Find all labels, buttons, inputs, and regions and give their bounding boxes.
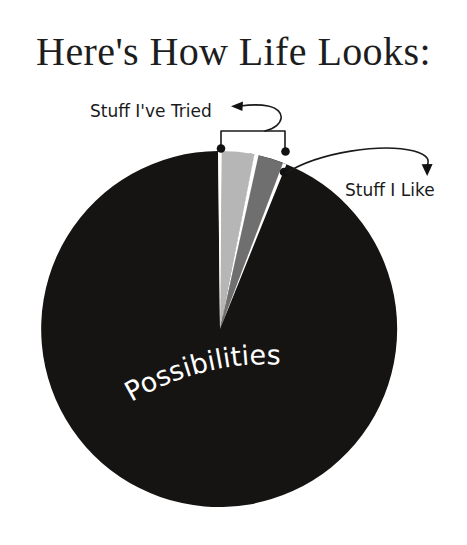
annotation-stuff-i-like: Stuff I Like (345, 180, 435, 200)
pie-slices (41, 151, 397, 507)
leader-dot-right (281, 147, 290, 156)
leader-dot-left (217, 144, 226, 153)
annotation-stuff-ive-tried: Stuff I've Tried (90, 101, 212, 121)
pie-chart-figure: Possibilities Stuff I've Tried Stuff I L… (0, 0, 467, 545)
leader-stuff-ive-tried (217, 102, 290, 156)
pie-chart-page: Here's How Life Looks: Possibilities (0, 0, 467, 545)
arrow-head-right (422, 164, 433, 176)
arrow-head-left (231, 102, 243, 111)
